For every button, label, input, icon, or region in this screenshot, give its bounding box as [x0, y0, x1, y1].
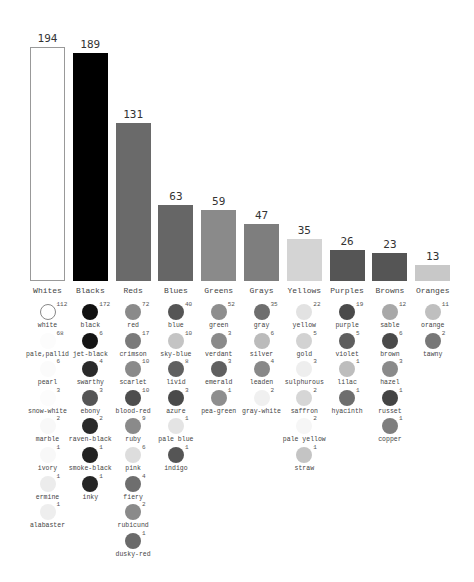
term-swatch — [40, 476, 56, 492]
term-swatch — [125, 333, 141, 349]
term-label: russet — [355, 408, 425, 415]
term-count: 72 — [142, 301, 149, 308]
bar-oranges — [415, 265, 450, 281]
bar-value-label: 23 — [360, 238, 420, 251]
term-count: 2 — [442, 330, 446, 337]
term-label: pale blue — [141, 436, 211, 443]
term-swatch — [254, 304, 270, 320]
term-swatch — [339, 390, 355, 406]
term-count: 35 — [271, 301, 278, 308]
term-swatch — [425, 333, 441, 349]
term-swatch — [382, 333, 398, 349]
term-swatch — [40, 333, 56, 349]
term-swatch — [125, 476, 141, 492]
term-label: alabaster — [13, 522, 83, 529]
term-count: 4 — [271, 358, 275, 365]
term-count: 4 — [99, 358, 103, 365]
bar-blues — [158, 205, 193, 281]
term-count: 1 — [228, 387, 232, 394]
term-count: 2 — [99, 415, 103, 422]
bar-blacks — [73, 53, 108, 281]
term-swatch — [82, 333, 98, 349]
term-swatch — [339, 361, 355, 377]
term-count: 3 — [228, 358, 232, 365]
term-swatch — [40, 418, 56, 434]
term-label: dusky-red — [98, 551, 168, 558]
term-count: 6 — [57, 358, 61, 365]
term-swatch — [425, 304, 441, 320]
term-label: hazel — [355, 379, 425, 386]
term-label: rubicund — [98, 522, 168, 529]
term-swatch — [254, 390, 270, 406]
term-swatch — [382, 304, 398, 320]
term-count: 1 — [57, 501, 61, 508]
term-swatch — [82, 361, 98, 377]
bar-whites — [30, 47, 65, 281]
term-swatch — [125, 418, 141, 434]
term-label: orange — [398, 322, 468, 329]
term-count: 19 — [356, 301, 363, 308]
term-count: 2 — [313, 387, 317, 394]
bar-value-label: 59 — [189, 195, 249, 208]
term-swatch — [168, 304, 184, 320]
term-swatch — [125, 504, 141, 520]
term-count: 3 — [185, 387, 189, 394]
term-count: 68 — [57, 330, 64, 337]
term-count: 11 — [442, 301, 449, 308]
term-swatch — [82, 476, 98, 492]
term-count: 6 — [399, 330, 403, 337]
term-count: 2 — [313, 415, 317, 422]
term-swatch — [254, 333, 270, 349]
term-swatch — [82, 304, 98, 320]
term-count: 12 — [399, 301, 406, 308]
term-label: indigo — [141, 465, 211, 472]
category-label: Oranges — [403, 286, 463, 295]
term-swatch — [125, 533, 141, 549]
term-count: 5 — [313, 330, 317, 337]
term-count: 6 — [99, 330, 103, 337]
term-count: 2 — [142, 501, 146, 508]
term-count: 1 — [399, 415, 403, 422]
term-swatch — [339, 333, 355, 349]
bar-value-label: 13 — [403, 250, 463, 263]
term-count: 5 — [356, 330, 360, 337]
term-count: 40 — [185, 301, 192, 308]
term-count: 1 — [57, 444, 61, 451]
term-count: 1 — [313, 444, 317, 451]
term-count: 6 — [271, 330, 275, 337]
term-swatch — [82, 418, 98, 434]
term-swatch — [40, 304, 56, 320]
term-count: 1 — [99, 444, 103, 451]
term-swatch — [254, 361, 270, 377]
term-swatch — [382, 361, 398, 377]
bar-purples — [330, 250, 365, 281]
term-count: 1 — [142, 530, 146, 537]
term-count: 1 — [185, 415, 189, 422]
term-label: fiery — [98, 494, 168, 501]
term-count: 1 — [356, 387, 360, 394]
bar-value-label: 47 — [232, 209, 292, 222]
term-label: copper — [355, 436, 425, 443]
term-count: 172 — [99, 301, 110, 308]
term-swatch — [40, 361, 56, 377]
term-swatch — [211, 361, 227, 377]
term-count: 1 — [57, 473, 61, 480]
term-count: 9 — [142, 415, 146, 422]
term-swatch — [40, 504, 56, 520]
bar-value-label: 189 — [60, 38, 120, 51]
term-swatch — [82, 447, 98, 463]
term-count: 1 — [185, 444, 189, 451]
term-count: 3 — [228, 330, 232, 337]
term-count: 10 — [142, 387, 149, 394]
term-swatch — [211, 304, 227, 320]
term-count: 1 — [99, 473, 103, 480]
term-count: 4 — [142, 473, 146, 480]
bar-value-label: 131 — [103, 108, 163, 121]
term-swatch — [296, 333, 312, 349]
term-count: 22 — [313, 301, 320, 308]
term-label: tawny — [398, 351, 468, 358]
term-swatch — [40, 447, 56, 463]
term-count: 3 — [399, 358, 403, 365]
term-swatch — [296, 418, 312, 434]
color-term-bar-chart: 194Whites112white68pale,pallid6pearl3sno… — [0, 0, 474, 582]
